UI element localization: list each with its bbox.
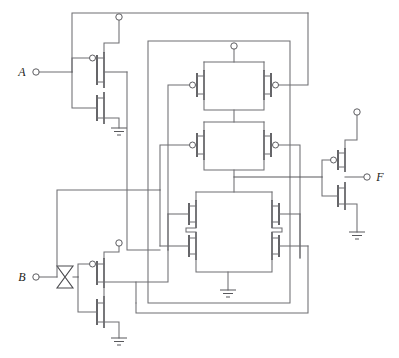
nmos-bridge-lower-left-stubs [189,238,196,254]
nmos-output-gate-wire [322,177,338,196]
nmos-bridge-upper-right-stubs [272,206,279,222]
a-bar-down-route [127,72,160,250]
inverter-b-group: B [18,72,308,345]
nmos-inverter-b-stubs [97,303,104,322]
pmos-top-right-gate-wire [279,13,309,85]
pmos-lower-pair-group [160,122,322,258]
input-a-label: A [17,65,26,79]
nmos-left-series-link [186,228,196,232]
nmos-top-legs [196,192,272,200]
pmos-top-left-gate-wire [168,85,190,250]
nmos-network-group [160,192,308,297]
pmos-upper-source-legs [204,62,264,70]
output-inverter-group: F [322,109,384,239]
pmos-mid-left-gate-wire [160,145,190,190]
vdd-center-terminal [231,43,237,49]
pmos-output-bubble [331,157,337,163]
circuit-schematic: A [0,0,399,358]
center-block-frame [148,41,290,303]
pmos-lower-source-legs [204,122,264,130]
vdd-inverter-a-terminal [116,14,122,20]
pmos-mid-right-stubs [264,136,271,154]
vdd-output-rail [345,115,357,148]
input-a-terminal [33,69,39,75]
pmos-inverter-a-stubs [97,58,104,82]
nmos-inverter-a-gate-wire [72,72,97,108]
nmos-bridge-upper-left-stubs [189,206,196,222]
bowtie-marker-b-icon [57,266,73,288]
input-b-terminal [33,274,39,280]
vdd-inverter-a-rail [104,20,119,52]
pmos-mid-right-gate-wire [279,145,301,258]
pmos-mid-left-stubs [197,136,204,154]
pmos-lower-drain-rail [204,160,264,170]
gnd-inverter-a-wire [104,118,119,128]
pmos-inverter-a-bubble [90,55,96,61]
nmos-inverter-b-gate-wire [78,277,97,312]
gnd-inverter-a-symbol [111,128,127,135]
input-b-label: B [18,270,26,284]
nmos-right-series-link [272,228,282,232]
nmos-output-stubs [338,188,345,204]
output-f-terminal [364,174,370,180]
nmos-bridge-lower-right-stubs [272,238,279,254]
circuit-svg: A [0,0,399,358]
pmos-inverter-b-bubble [90,261,96,267]
gnd-inverter-b-wire [104,322,119,338]
pmos-inverter-a-gate-wire [72,58,90,72]
vdd-inverter-b-terminal [116,240,122,246]
vdd-inverter-b-rail [104,246,119,258]
center-block-outline [148,41,290,303]
input-b-up-route [57,190,160,277]
inverter-b-output-wire [104,282,136,303]
pmos-top-left-bubble [190,82,196,88]
gnd-output-wire [345,204,357,232]
pmos-mid-left-bubble [190,142,196,148]
nmos-bottom-rail [196,260,272,272]
output-f-label: F [375,170,384,184]
pmos-top-right-bubble [273,82,279,88]
inverter-b-out-to-nmos-gate [136,250,168,282]
gnd-output-symbol [349,232,365,239]
vdd-output-terminal [354,109,360,115]
gnd-inverter-b-symbol [111,338,127,345]
pmos-inverter-b-stubs [97,264,104,282]
gnd-center-symbol [220,290,236,297]
nmos-inverter-a-stubs [97,98,104,118]
pmos-top-right-stubs [264,76,271,94]
pmos-mid-right-bubble [273,142,279,148]
pmos-output-stubs [338,153,345,167]
pmos-top-left-stubs [197,76,204,94]
pmos-inverter-b-gate-wire [78,264,90,277]
pmos-output-gate-wire [322,160,331,177]
pmos-upper-drain-rail [204,100,264,110]
